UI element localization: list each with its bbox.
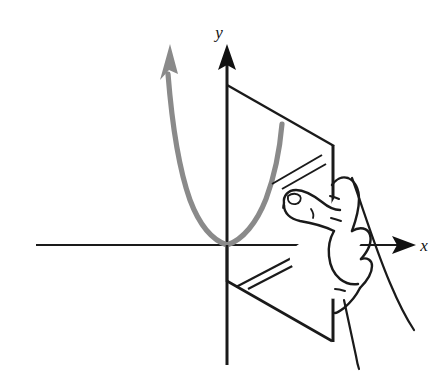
parabola-plane-figure: y x: [0, 0, 448, 389]
y-axis-label: y: [213, 23, 223, 42]
x-axis-label: x: [419, 236, 428, 255]
index-fingertip: [283, 203, 284, 208]
fingernail: [288, 194, 301, 204]
figure-canvas: y x: [0, 0, 448, 389]
